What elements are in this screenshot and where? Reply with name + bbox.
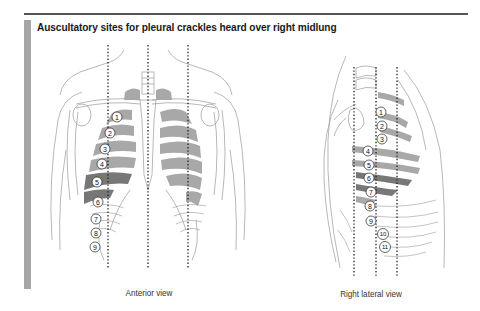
site-marker-8: 8 — [91, 228, 101, 238]
svg-text:6: 6 — [96, 199, 100, 206]
site-marker-4: 4 — [97, 159, 107, 169]
site-marker-5: 5 — [92, 177, 102, 187]
svg-text:3: 3 — [103, 146, 107, 153]
svg-text:1: 1 — [379, 109, 383, 116]
site-marker-3: 3 — [100, 144, 110, 154]
svg-text:8: 8 — [368, 203, 372, 210]
site-marker-9: 9 — [366, 216, 376, 226]
lateral-rib-shading — [352, 92, 420, 206]
svg-text:4: 4 — [366, 148, 370, 155]
site-marker-11: 11 — [380, 242, 391, 253]
svg-text:9: 9 — [369, 218, 373, 225]
anterior-view-caption: Anterior view — [118, 288, 181, 298]
site-marker-10: 10 — [378, 229, 389, 240]
site-marker-6: 6 — [364, 173, 374, 183]
svg-text:6: 6 — [367, 175, 371, 182]
svg-text:9: 9 — [93, 244, 97, 251]
site-marker-5: 5 — [364, 160, 374, 170]
site-marker-8: 8 — [365, 201, 375, 211]
svg-text:5: 5 — [367, 162, 371, 169]
svg-text:4: 4 — [100, 161, 104, 168]
site-marker-9: 9 — [90, 242, 100, 252]
site-marker-4: 4 — [363, 146, 373, 156]
svg-text:5: 5 — [95, 179, 99, 186]
svg-text:10: 10 — [380, 231, 387, 237]
site-marker-2: 2 — [105, 128, 115, 138]
site-marker-1: 1 — [376, 107, 386, 117]
site-marker-3: 3 — [377, 134, 387, 144]
site-marker-2: 2 — [377, 121, 387, 131]
anatomy-illustration: 1 2 3 4 5 6 7 8 9 — [0, 0, 480, 311]
svg-text:7: 7 — [94, 216, 98, 223]
svg-text:2: 2 — [108, 130, 112, 137]
svg-text:3: 3 — [380, 136, 384, 143]
svg-text:1: 1 — [115, 114, 119, 121]
site-marker-7: 7 — [366, 187, 376, 197]
site-marker-1: 1 — [112, 112, 122, 122]
site-marker-7: 7 — [91, 214, 101, 224]
lateral-view-caption: Right lateral view — [331, 289, 412, 299]
svg-text:11: 11 — [382, 244, 389, 250]
svg-text:2: 2 — [380, 123, 384, 130]
svg-text:7: 7 — [369, 189, 373, 196]
site-marker-6: 6 — [93, 197, 103, 207]
svg-text:8: 8 — [94, 230, 98, 237]
